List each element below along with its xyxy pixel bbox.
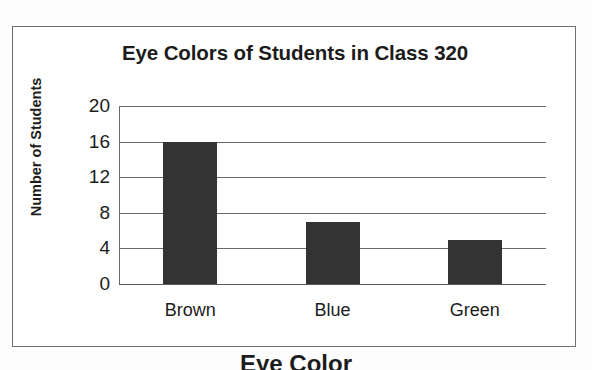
x-label-brown: Brown — [165, 300, 216, 321]
y-axis-line — [119, 106, 120, 284]
plot-area: 048121620 BrownBlueGreen — [119, 106, 546, 284]
y-tick-label-4: 4 — [99, 237, 110, 259]
y-tick-label-8: 8 — [99, 202, 110, 224]
y-tick-label-20: 20 — [89, 95, 110, 117]
scanned-page: Eye Colors of Students in Class 320 Numb… — [0, 0, 592, 370]
gridline-0 — [119, 284, 546, 285]
clipped-x-axis-caption-text: Eye Color — [0, 352, 592, 370]
y-tick-label-12: 12 — [89, 166, 110, 188]
bar-brown — [163, 142, 217, 284]
chart-frame: Eye Colors of Students in Class 320 Numb… — [12, 26, 576, 347]
y-axis-title: Number of Students — [28, 62, 44, 232]
y-tick-label-16: 16 — [89, 131, 110, 153]
bar-blue — [306, 222, 360, 284]
bar-green — [448, 240, 502, 285]
gridline-20 — [119, 106, 546, 107]
clipped-x-axis-caption: Eye Color — [0, 352, 592, 370]
chart-title: Eye Colors of Students in Class 320 — [13, 41, 577, 65]
x-label-blue: Blue — [314, 300, 350, 321]
y-tick-label-0: 0 — [99, 273, 110, 295]
x-label-green: Green — [450, 300, 500, 321]
